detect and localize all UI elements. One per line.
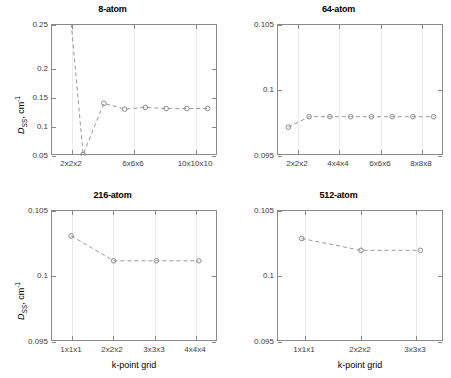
x-tick-label: 4x4x4 [327, 159, 348, 168]
x-tick-label: 3x3x3 [404, 345, 425, 354]
y-tick [52, 156, 56, 157]
y-tick-label: 0.1 [228, 271, 274, 280]
panel-64-atom: 64-atom 0.095 0.1 0.105 2x [226, 4, 451, 189]
y-tick-label: 0.25 [8, 20, 48, 29]
y-tick-label: 0.15 [8, 93, 48, 102]
x-tick-label: 3x3x3 [143, 345, 164, 354]
y-tick-label: 0.095 [228, 337, 274, 346]
plot-area-64-atom [277, 24, 443, 155]
plot-area-8-atom [51, 24, 217, 155]
x-tick-label: 2x2x2 [286, 159, 307, 168]
y-tick [52, 342, 56, 343]
x-tick-label: 2x2x2 [60, 159, 81, 168]
x-tick-label: 2x2x2 [349, 345, 370, 354]
x-tick-label: 8x8x8 [410, 159, 431, 168]
y-tick [438, 156, 442, 157]
y-tick [278, 342, 282, 343]
panel-title-512-atom: 512-atom [226, 190, 451, 200]
y-tick-label: 0.105 [228, 206, 274, 215]
data-series-64-atom [278, 25, 444, 156]
y-axis-label-216-atom: DSS, cm-1 [14, 282, 28, 320]
x-axis-label-216-atom: k-point grid [51, 360, 217, 370]
plot-area-512-atom [277, 210, 443, 341]
y-tick-label: 0.095 [2, 337, 48, 346]
y-tick-label: 0.1 [8, 122, 48, 131]
x-tick-label: 6x6x6 [369, 159, 390, 168]
panel-title-216-atom: 216-atom [0, 190, 225, 200]
x-tick-label: 6x6x6 [122, 159, 143, 168]
y-axis-unit: , cm [16, 288, 26, 305]
panel-title-8-atom: 8-atom [0, 4, 225, 14]
panel-title-64-atom: 64-atom [226, 4, 451, 14]
y-tick-label: 0.105 [228, 20, 274, 29]
y-tick-label: 0.2 [8, 64, 48, 73]
y-tick-label: 0.05 [8, 151, 48, 160]
data-series-8-atom [52, 25, 218, 156]
panel-8-atom: 8-atom DSS, cm-1 [0, 4, 225, 189]
y-axis-symbol: D [16, 314, 26, 321]
x-tick-label: 1x1x1 [60, 345, 81, 354]
panel-216-atom: 216-atom DSS, cm-1 0.0 [0, 190, 225, 378]
y-tick-label: 0.1 [2, 271, 48, 280]
y-tick-label: 0.105 [2, 206, 48, 215]
y-tick-label: 0.095 [228, 151, 274, 160]
figure-canvas: 8-atom DSS, cm-1 [0, 0, 451, 378]
x-axis-label-512-atom: k-point grid [277, 360, 443, 370]
y-tick [278, 156, 282, 157]
x-tick-label: 4x4x4 [184, 345, 205, 354]
y-tick [438, 342, 442, 343]
y-tick-label: 0.1 [228, 85, 274, 94]
y-axis-unit-exponent: -1 [14, 282, 21, 288]
x-tick-label: 10x10x10 [178, 159, 213, 168]
panel-512-atom: 512-atom 0.095 0.1 0.105 1x1x1 2x2x2 3x [226, 190, 451, 378]
data-series-216-atom [52, 211, 218, 342]
y-axis-unit: , cm [16, 102, 26, 119]
data-series-512-atom [278, 211, 444, 342]
plot-area-216-atom [51, 210, 217, 341]
y-tick [212, 342, 216, 343]
x-tick-label: 1x1x1 [293, 345, 314, 354]
y-tick [212, 156, 216, 157]
y-axis-subscript: SS [21, 305, 28, 314]
x-tick-label: 2x2x2 [101, 345, 122, 354]
